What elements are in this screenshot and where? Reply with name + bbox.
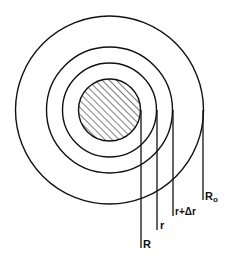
concentric-circles-diagram: R r r+Δr Ro xyxy=(0,0,229,259)
label-R: R xyxy=(143,238,151,250)
label-r-plus-dr: r+Δr xyxy=(175,206,196,217)
hatched-core xyxy=(78,79,141,142)
label-R0: Ro xyxy=(205,190,218,204)
label-R0-main: R xyxy=(205,190,213,202)
label-r: r xyxy=(160,219,165,231)
label-R0-sub: o xyxy=(213,195,218,204)
